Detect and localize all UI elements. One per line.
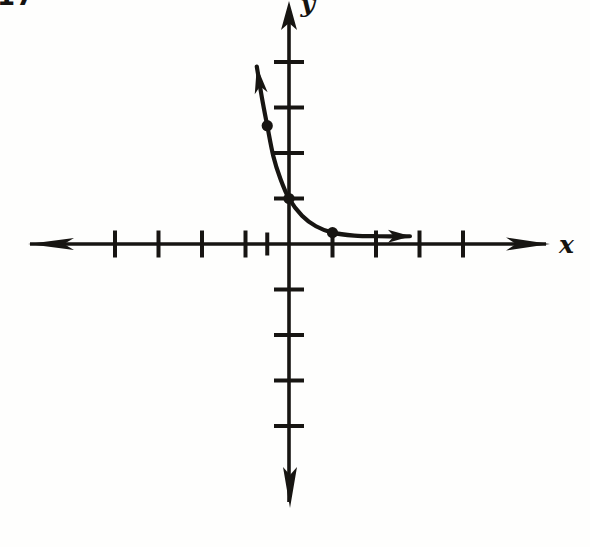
problem-number: 17 bbox=[0, 0, 35, 9]
marked-point-dot bbox=[262, 120, 273, 131]
scanned-graph-figure: 17 xy bbox=[0, 0, 590, 547]
x-axis-label: x bbox=[558, 230, 575, 259]
marked-point-dot bbox=[283, 193, 294, 204]
coordinate-plane-graph: xy bbox=[0, 0, 590, 547]
y-axis-label: y bbox=[300, 0, 317, 18]
marked-point-dot bbox=[327, 227, 338, 238]
